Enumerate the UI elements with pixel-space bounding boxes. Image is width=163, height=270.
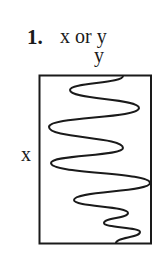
plot-area [0,0,163,270]
oscillating-curve [49,76,150,243]
